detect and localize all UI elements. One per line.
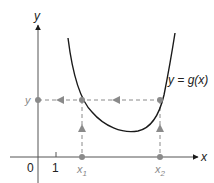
x1-label: x1 <box>76 163 87 178</box>
tick-1-label: 1 <box>52 161 59 175</box>
curve-label: y = g(x) <box>167 73 208 87</box>
arrow-up-icon <box>78 124 86 132</box>
function-diagram: y x 0 1 y x1 x2 y = g(x) <box>0 0 214 183</box>
arrow-left-icon <box>56 96 64 104</box>
curve-g <box>68 33 175 132</box>
y-value-label: y <box>24 94 32 106</box>
arrow-left-icon <box>112 96 120 104</box>
point-x1-curve <box>79 97 85 103</box>
arrow-up-icon <box>156 124 164 132</box>
y-axis-label: y <box>33 9 41 23</box>
point-x2 <box>157 154 163 160</box>
point-x1 <box>79 154 85 160</box>
x-axis-label: x <box>200 150 208 164</box>
x2-label: x2 <box>154 163 166 178</box>
point-y <box>35 97 41 103</box>
point-x2-curve <box>157 97 163 103</box>
origin-label: 0 <box>27 161 34 175</box>
